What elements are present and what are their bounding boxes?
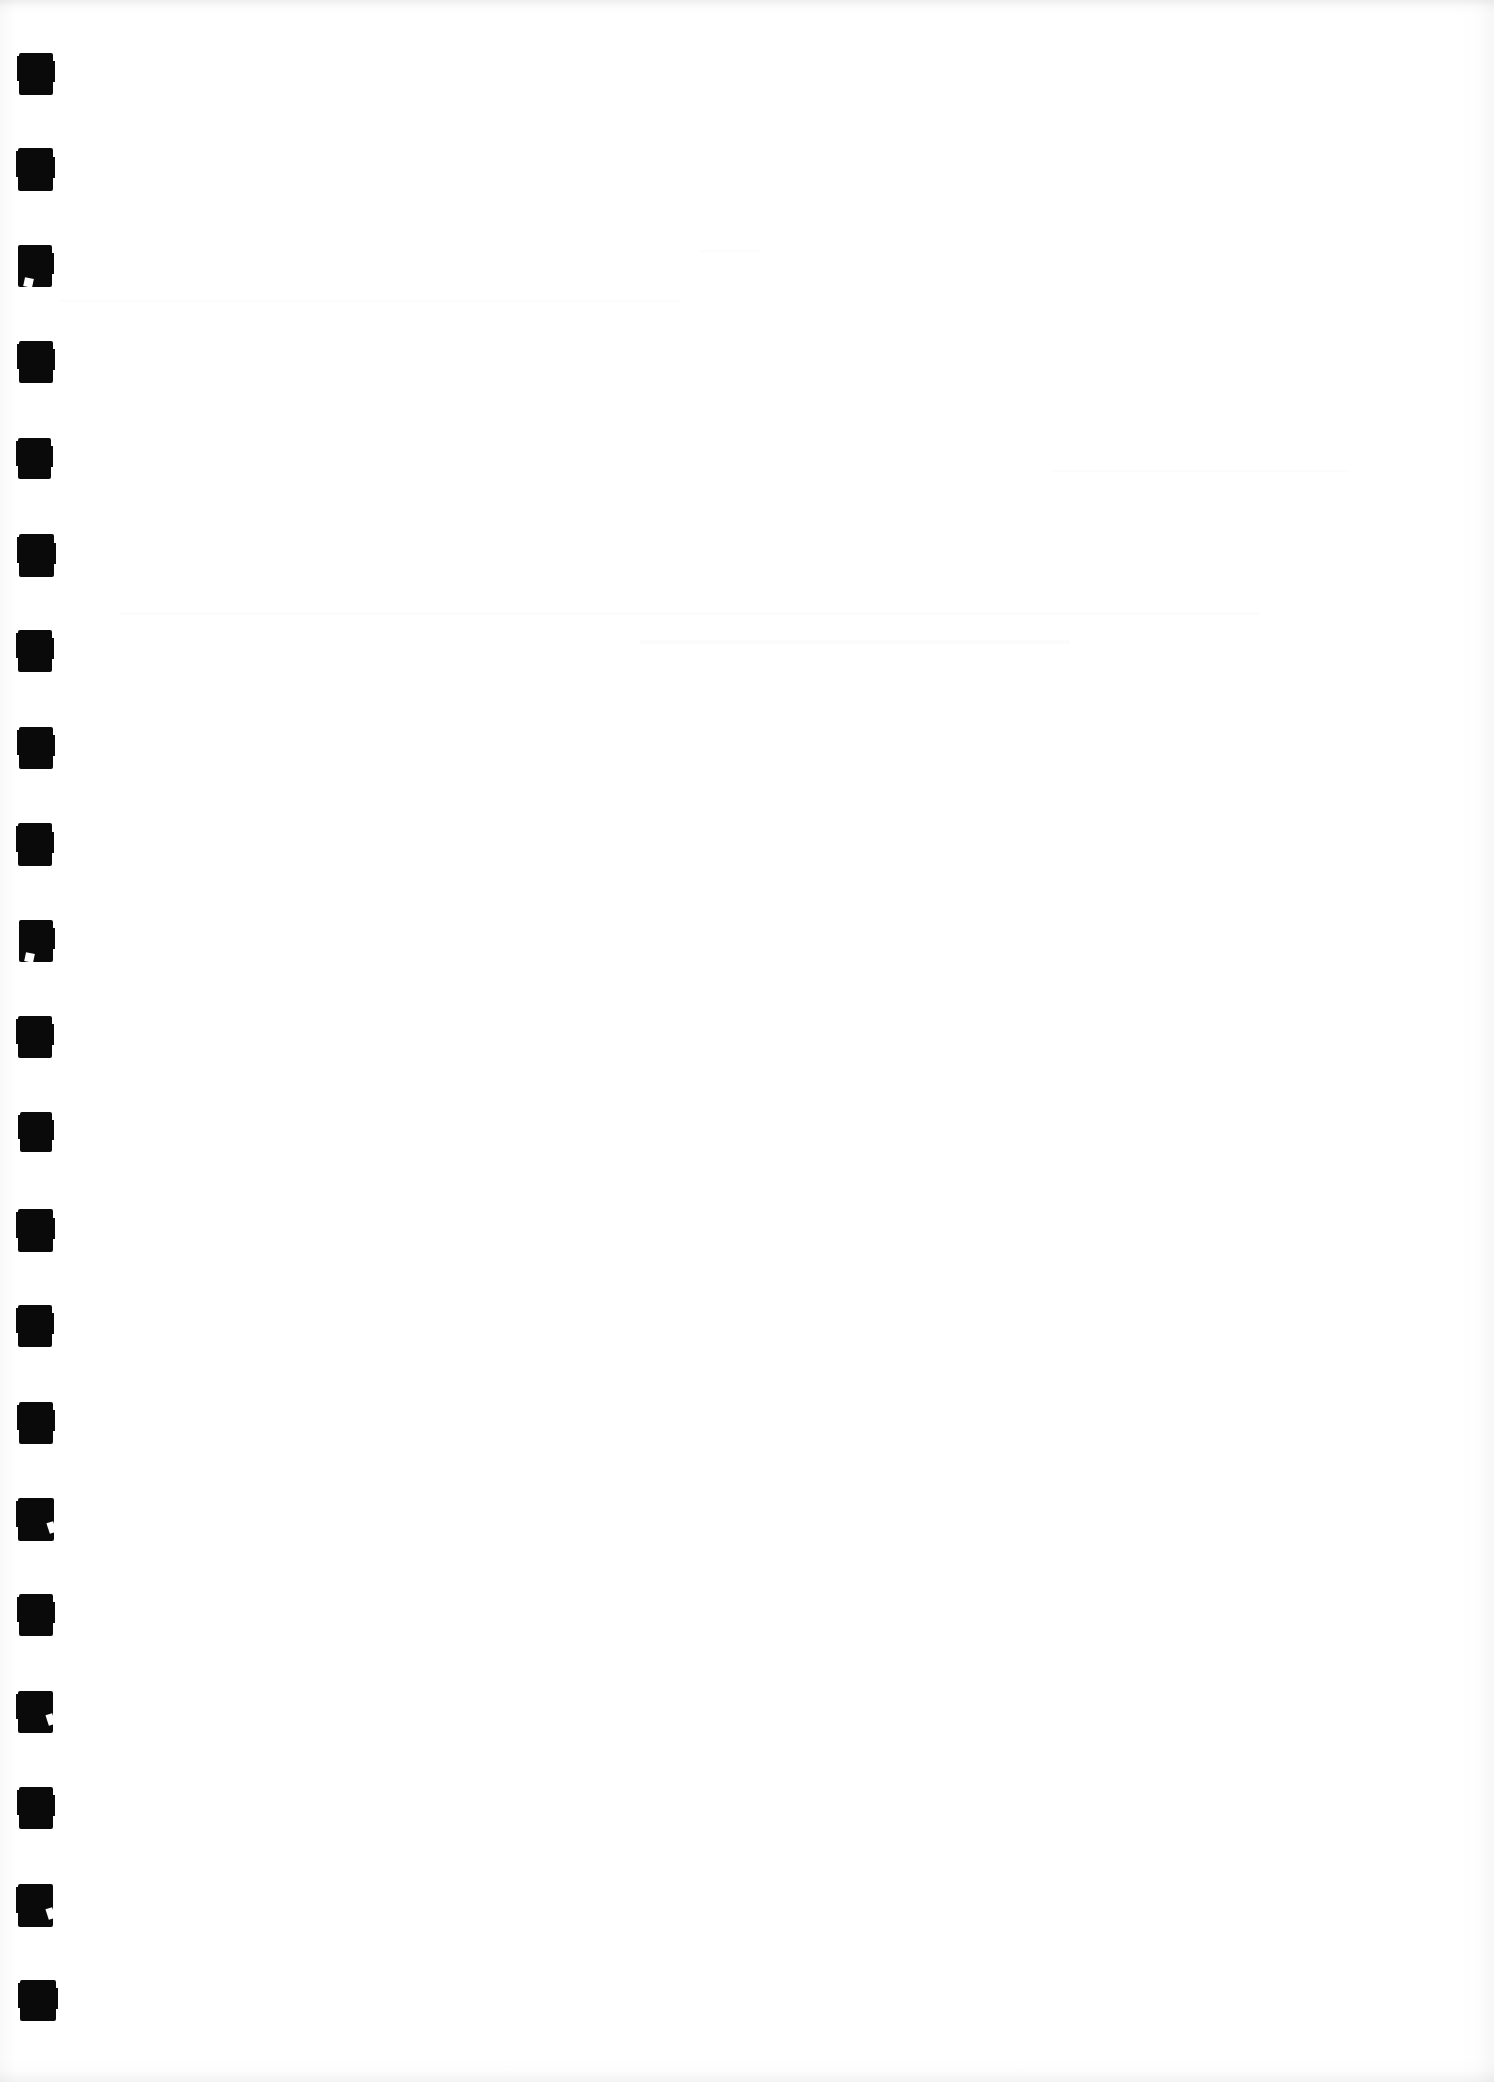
register-mark (19, 1402, 53, 1444)
scan-register-marks (0, 0, 80, 2082)
register-mark (18, 1498, 54, 1541)
scanned-page (0, 0, 1494, 2082)
register-mark (18, 1016, 52, 1058)
register-mark (19, 920, 53, 962)
register-mark (19, 1787, 53, 1829)
register-mark (18, 1305, 52, 1347)
register-mark (20, 1112, 52, 1152)
register-mark (19, 727, 53, 769)
register-mark (19, 53, 53, 95)
register-mark (18, 438, 51, 479)
register-mark (20, 1980, 56, 2021)
paper-surface (0, 0, 1494, 2082)
register-mark (18, 1884, 53, 1927)
register-mark (18, 630, 52, 672)
register-mark (18, 823, 52, 866)
register-mark (19, 534, 54, 577)
register-mark (18, 1209, 53, 1252)
register-mark (18, 148, 53, 191)
register-mark (19, 1594, 53, 1636)
register-mark (18, 245, 52, 287)
register-mark (18, 1691, 53, 1733)
register-mark (19, 341, 53, 383)
